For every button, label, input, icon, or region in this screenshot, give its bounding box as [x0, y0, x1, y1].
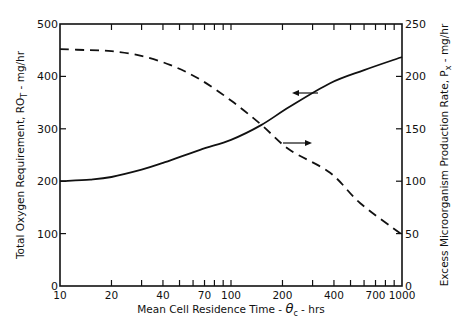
- y-axis-tick-labels: 0100200300400500: [37, 18, 58, 293]
- x-tick-label: 70: [198, 289, 211, 301]
- x-axis-tick-labels: 102040701002004007001000: [53, 289, 415, 301]
- x-tick-label: 400: [324, 289, 344, 301]
- y-tick-label: 200: [37, 175, 58, 188]
- y2-axis-title: Excess Microorganism Production Rate, Px…: [438, 23, 453, 286]
- y2-tick-label: 0: [405, 280, 412, 293]
- y2-tick-label: 100: [405, 175, 426, 188]
- plot-frame: [60, 24, 402, 286]
- x-tick-label: 100: [221, 289, 241, 301]
- oxygen-requirement-curve: [60, 57, 402, 181]
- y-tick-label: 0: [51, 280, 58, 293]
- x-axis-title: Mean Cell Residence Time - θc - hrs: [137, 301, 324, 318]
- y2-tick-label: 250: [405, 18, 426, 31]
- arrow-right-annotation: [283, 140, 312, 146]
- y2-tick-label: 150: [405, 123, 426, 136]
- chart: 102040701002004007001000 010020030040050…: [0, 0, 458, 335]
- y2-axis-tick-labels: 050100150200250: [405, 18, 426, 293]
- x-tick-label: 40: [156, 289, 169, 301]
- y-tick-label: 500: [37, 18, 58, 31]
- y-tick-label: 300: [37, 123, 58, 136]
- x-tick-label: 700: [365, 289, 385, 301]
- x-tick-label: 200: [272, 289, 292, 301]
- arrow-left-annotation: [292, 90, 318, 96]
- y-axis-title: Total Oxygen Requirement, ROT - mg/hr: [14, 50, 29, 260]
- x-axis-ticks: [111, 24, 394, 286]
- y-tick-label: 400: [37, 70, 58, 83]
- y2-tick-label: 50: [405, 228, 419, 241]
- y2-tick-label: 200: [405, 70, 426, 83]
- y-tick-label: 100: [37, 228, 58, 241]
- x-tick-label: 20: [105, 289, 118, 301]
- microorganism-production-curve: [60, 49, 402, 234]
